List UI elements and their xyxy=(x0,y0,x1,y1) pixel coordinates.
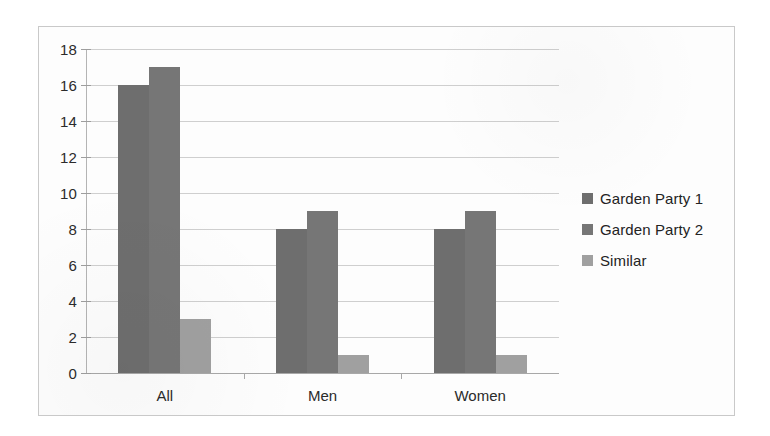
chart-legend: Garden Party 1Garden Party 2Similar xyxy=(582,183,703,276)
y-tick-label-12: 12 xyxy=(60,149,77,166)
legend-label: Garden Party 1 xyxy=(600,190,703,207)
x-axis-label-women: Women xyxy=(454,387,505,404)
bar-women-series-3 xyxy=(496,355,527,373)
bar-women-series-1 xyxy=(434,229,465,373)
y-tick-label-6: 6 xyxy=(68,257,77,274)
y-tick-mark-16 xyxy=(81,85,91,86)
bar-men-series-1 xyxy=(276,229,307,373)
legend-swatch-icon xyxy=(582,193,593,204)
y-tick-mark-10 xyxy=(81,193,91,194)
y-tick-mark-12 xyxy=(81,157,91,158)
y-tick-mark-4 xyxy=(81,301,91,302)
legend-item: Garden Party 1 xyxy=(582,183,703,214)
y-tick-label-4: 4 xyxy=(68,293,77,310)
legend-item: Similar xyxy=(582,245,703,276)
chart-container: 181614121086420 AllMenWomen Garden Party… xyxy=(38,26,735,416)
y-tick-mark-0 xyxy=(81,373,91,374)
legend-swatch-icon xyxy=(582,224,593,235)
y-tick-mark-14 xyxy=(81,121,91,122)
y-tick-label-10: 10 xyxy=(60,185,77,202)
y-tick-label-18: 18 xyxy=(60,41,77,58)
y-tick-mark-6 xyxy=(81,265,91,266)
y-tick-label-14: 14 xyxy=(60,113,77,130)
gridline-0 xyxy=(86,373,559,374)
y-axis-line xyxy=(86,49,87,373)
y-tick-label-2: 2 xyxy=(68,329,77,346)
x-axis-label-all: All xyxy=(156,387,173,404)
legend-label: Similar xyxy=(600,252,647,269)
y-tick-mark-2 xyxy=(81,337,91,338)
bar-men-series-3 xyxy=(338,355,369,373)
y-tick-mark-18 xyxy=(81,49,91,50)
plot-area: 181614121086420 AllMenWomen xyxy=(86,49,559,373)
bar-all-series-2 xyxy=(149,67,180,373)
legend-label: Garden Party 2 xyxy=(600,221,703,238)
x-tick-mark-1 xyxy=(244,373,245,379)
legend-item: Garden Party 2 xyxy=(582,214,703,245)
bar-all-series-3 xyxy=(180,319,211,373)
legend-swatch-icon xyxy=(582,255,593,266)
y-tick-label-16: 16 xyxy=(60,77,77,94)
bar-men-series-2 xyxy=(307,211,338,373)
gridline-18 xyxy=(86,49,559,50)
bar-all-series-1 xyxy=(118,85,149,373)
y-tick-mark-8 xyxy=(81,229,91,230)
x-axis-label-men: Men xyxy=(308,387,337,404)
bar-women-series-2 xyxy=(465,211,496,373)
y-tick-label-8: 8 xyxy=(68,221,77,238)
y-tick-label-0: 0 xyxy=(68,365,77,382)
x-tick-mark-2 xyxy=(401,373,402,379)
